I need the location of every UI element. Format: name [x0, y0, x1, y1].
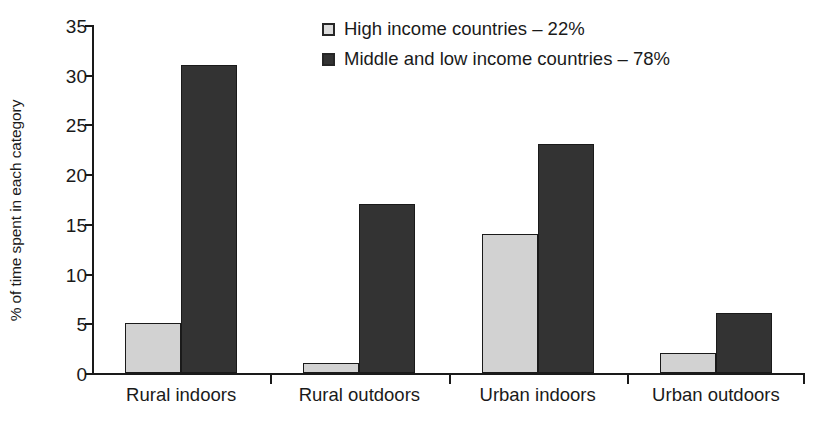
y-tick-label: 10	[66, 265, 87, 284]
bar-urban-indoors-series-1	[482, 234, 538, 373]
bar-rural-outdoors-series-1	[303, 363, 359, 373]
y-tick-label: 30	[66, 66, 87, 85]
bar-rural-outdoors-series-2	[359, 204, 415, 373]
legend-item-1: High income countries – 22%	[322, 14, 670, 44]
bar-chart: % of time spent in each category 0510152…	[0, 0, 827, 421]
legend-item-2: Middle and low income countries – 78%	[322, 44, 670, 74]
x-tick-mark	[449, 375, 451, 384]
x-axis-label-rural-indoors: Rural indoors	[92, 386, 270, 405]
y-axis-line	[92, 25, 94, 373]
plot-area: 05101520253035 Rural indoorsRural outdoo…	[92, 25, 805, 373]
y-tick-label: 35	[66, 17, 87, 36]
legend-item-label: Middle and low income countries – 78%	[344, 50, 670, 69]
x-axis-label-urban-outdoors: Urban outdoors	[627, 386, 805, 405]
x-tick-mark	[803, 375, 805, 384]
y-tick-label: 20	[66, 166, 87, 185]
bar-rural-indoors-series-2	[181, 65, 237, 373]
bar-urban-indoors-series-2	[538, 144, 594, 373]
x-tick-mark	[270, 375, 272, 384]
legend-swatch-icon	[322, 23, 335, 36]
x-axis-label-urban-indoors: Urban indoors	[449, 386, 627, 405]
x-tick-mark	[627, 375, 629, 384]
legend-swatch-icon	[322, 53, 335, 66]
chart-legend: High income countries – 22%Middle and lo…	[322, 14, 670, 74]
bar-rural-indoors-series-1	[125, 323, 181, 373]
y-tick-label: 15	[66, 215, 87, 234]
bar-urban-outdoors-series-1	[660, 353, 716, 373]
y-axis-title: % of time spent in each category	[0, 0, 32, 421]
y-tick-label: 5	[76, 315, 87, 334]
y-tick-label: 25	[66, 116, 87, 135]
legend-item-label: High income countries – 22%	[344, 20, 585, 39]
bar-urban-outdoors-series-2	[716, 313, 772, 373]
y-tick-label: 0	[76, 365, 87, 384]
x-axis-label-rural-outdoors: Rural outdoors	[270, 386, 448, 405]
